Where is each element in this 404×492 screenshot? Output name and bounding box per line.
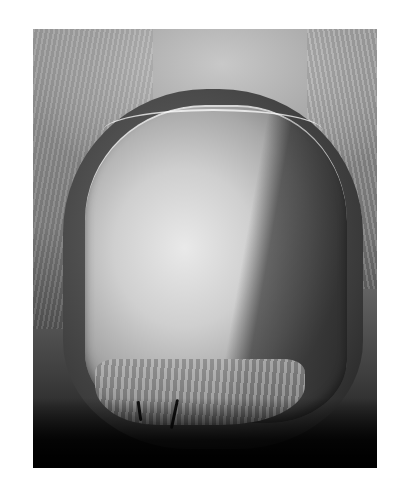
fingernail-photo <box>33 29 377 468</box>
bottom-shadow <box>33 398 377 468</box>
